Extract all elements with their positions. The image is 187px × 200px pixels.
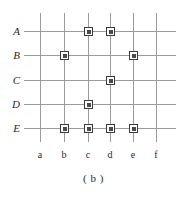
row-label-E: E: [13, 123, 20, 134]
grid-marker-Dc: [84, 100, 93, 109]
figure-caption: ( b ): [0, 172, 187, 184]
grid-marker-Ed: [106, 124, 115, 133]
grid-line-horizontal-D: [24, 104, 176, 105]
grid-marker-Ac: [84, 27, 93, 36]
grid-marker-Eb: [60, 124, 69, 133]
column-label-d: d: [108, 150, 113, 160]
grid-area: ABCDEabcdef: [0, 0, 187, 145]
grid-line-horizontal-A: [24, 31, 176, 32]
row-label-C: C: [13, 75, 20, 86]
column-label-a: a: [38, 150, 42, 160]
column-label-e: e: [131, 150, 135, 160]
grid-line-horizontal-B: [24, 55, 176, 56]
grid-marker-Be: [129, 51, 138, 60]
grid-line-horizontal-C: [24, 80, 176, 81]
column-label-c: c: [86, 150, 90, 160]
grid-marker-Ec: [84, 124, 93, 133]
grid-line-vertical-e: [133, 13, 134, 142]
figure-container: ABCDEabcdef ( b ): [0, 0, 187, 200]
grid-marker-Ad: [106, 27, 115, 36]
grid-marker-Bb: [60, 51, 69, 60]
grid-line-vertical-a: [40, 13, 41, 142]
row-label-A: A: [13, 26, 20, 37]
grid-marker-Cd: [106, 76, 115, 85]
column-label-b: b: [62, 150, 67, 160]
row-label-D: D: [12, 99, 20, 110]
grid-line-horizontal-E: [24, 128, 176, 129]
grid-line-vertical-b: [64, 13, 65, 142]
column-label-f: f: [154, 150, 157, 160]
grid-line-vertical-f: [156, 13, 157, 142]
grid-marker-Ee: [129, 124, 138, 133]
row-label-B: B: [13, 50, 20, 61]
